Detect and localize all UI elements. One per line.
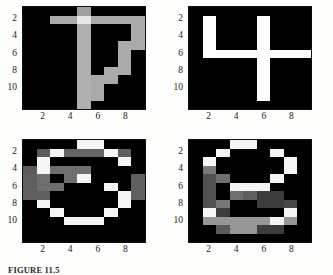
pixel-cell — [104, 140, 118, 149]
pixel-cell — [216, 183, 230, 192]
pixel-cell — [284, 16, 298, 25]
pixel-cell — [243, 149, 257, 158]
pixel-cell — [216, 75, 230, 84]
pixel-cell — [216, 166, 230, 175]
pixel-cell — [118, 75, 132, 84]
pixel-cell — [23, 41, 37, 50]
pixel-cell — [230, 191, 244, 200]
pixel-cell — [257, 217, 271, 226]
pixel-cell — [77, 7, 91, 16]
pixel-cell — [131, 140, 145, 149]
pixel-cell — [118, 191, 132, 200]
pixel-cell — [91, 16, 105, 25]
pixel-cell — [270, 101, 284, 110]
pixel-cell — [23, 140, 37, 149]
pixel-cell — [284, 157, 298, 166]
pixel-cell — [77, 140, 91, 149]
pixel-cell — [284, 84, 298, 93]
pixel-cell — [50, 217, 64, 226]
pixel-cell — [284, 24, 298, 33]
pixel-cell — [77, 16, 91, 25]
pixel-cell — [131, 149, 145, 158]
pixel-cell — [216, 33, 230, 42]
plot-area-panel-0 — [22, 6, 146, 110]
pixel-cell — [284, 50, 298, 59]
pixel-cell — [189, 234, 203, 243]
pixel-cell — [64, 50, 78, 59]
pixel-cell — [297, 200, 311, 209]
pixel-cell — [297, 7, 311, 16]
pixel-cell — [64, 41, 78, 50]
pixel-cell — [243, 166, 257, 175]
pixel-cell — [189, 225, 203, 234]
pixel-cell — [91, 24, 105, 33]
pixel-cell — [37, 140, 51, 149]
y-tick-label: 4 — [12, 165, 17, 175]
pixel-cell — [243, 58, 257, 67]
pixel-cell — [203, 84, 217, 93]
pixel-cell — [118, 16, 132, 25]
pixel-cell — [77, 174, 91, 183]
pixel-cell — [257, 50, 271, 59]
pixel-cell — [50, 33, 64, 42]
pixel-cell — [91, 101, 105, 110]
y-tick-label: 2 — [178, 147, 183, 157]
pixel-cell — [91, 149, 105, 158]
pixel-cell — [118, 84, 132, 93]
pixel-cell — [91, 166, 105, 175]
pixel-cell — [91, 208, 105, 217]
pixel-cell — [91, 157, 105, 166]
y-tick-label: 10 — [8, 84, 18, 94]
pixel-cell — [23, 166, 37, 175]
pixel-cell — [216, 92, 230, 101]
pixel-cell — [77, 58, 91, 67]
pixel-cell — [91, 234, 105, 243]
pixel-cell — [131, 7, 145, 16]
pixel-cell — [257, 208, 271, 217]
pixel-cell — [37, 166, 51, 175]
pixel-cell — [284, 140, 298, 149]
pixel-cell — [77, 84, 91, 93]
pixel-cell — [203, 101, 217, 110]
pixel-cell — [257, 200, 271, 209]
pixel-cell — [64, 208, 78, 217]
pixel-cell — [50, 58, 64, 67]
pixel-cell — [37, 16, 51, 25]
pixel-cell — [118, 166, 132, 175]
x-axis-ticks-panel-2: 2468 — [22, 243, 146, 259]
pixel-cell — [37, 24, 51, 33]
pixel-cell — [257, 41, 271, 50]
pixel-cell — [270, 16, 284, 25]
y-tick-label: 2 — [178, 14, 183, 24]
pixel-cell — [50, 225, 64, 234]
pixel-cell — [230, 101, 244, 110]
pixel-cell — [23, 75, 37, 84]
pixel-cell — [203, 16, 217, 25]
pixel-cell — [131, 33, 145, 42]
pixel-cell — [243, 183, 257, 192]
pixel-cell — [189, 84, 203, 93]
pixel-cell — [77, 67, 91, 76]
pixel-cell — [203, 24, 217, 33]
pixel-cell — [131, 58, 145, 67]
pixel-cell — [64, 225, 78, 234]
pixel-cell — [270, 50, 284, 59]
pixel-cell — [297, 140, 311, 149]
pixel-cell — [23, 234, 37, 243]
pixel-cell — [257, 75, 271, 84]
pixel-cell — [270, 24, 284, 33]
pixel-cell — [37, 174, 51, 183]
pixel-cell — [23, 67, 37, 76]
pixel-cell — [77, 75, 91, 84]
pixel-cell — [284, 149, 298, 158]
pixel-cell — [118, 101, 132, 110]
pixel-cell — [216, 174, 230, 183]
pixel-cell — [270, 67, 284, 76]
pixel-cell — [104, 67, 118, 76]
x-tick-label: 2 — [206, 245, 211, 255]
pixel-cell — [243, 234, 257, 243]
pixel-cell — [64, 234, 78, 243]
pixel-cell — [37, 217, 51, 226]
x-tick-label: 6 — [95, 112, 100, 122]
pixel-cell — [118, 33, 132, 42]
